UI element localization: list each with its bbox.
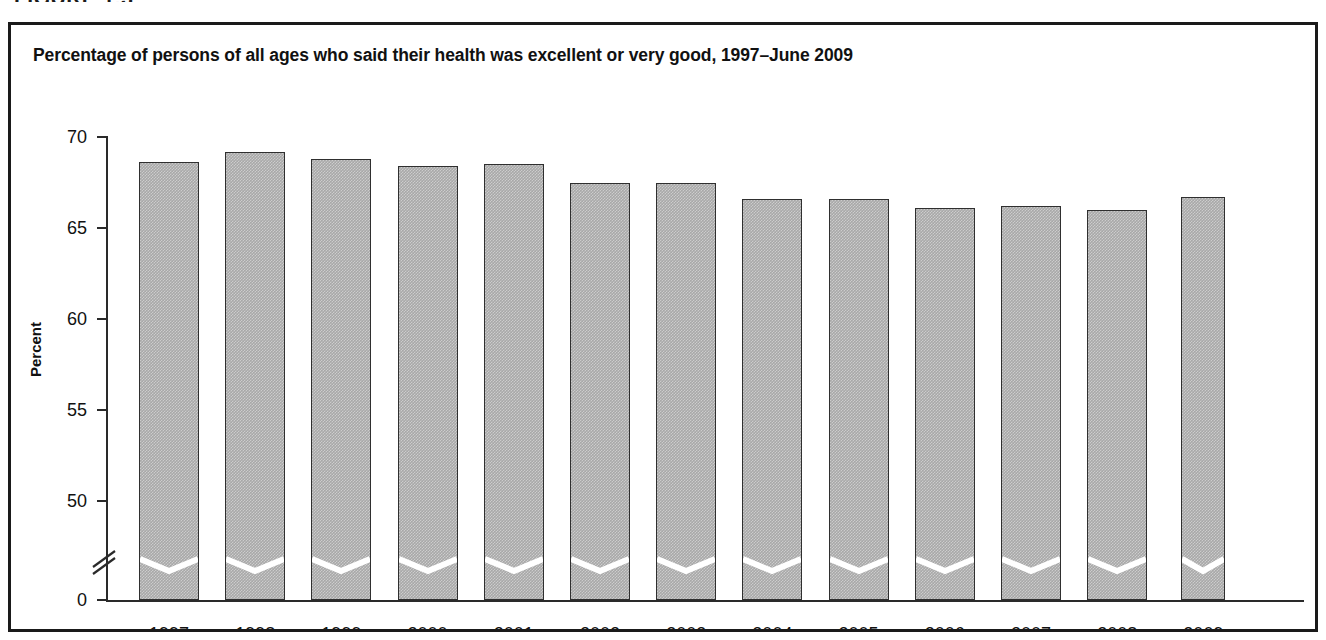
bar-break-mark [916,555,974,577]
bar-break-mark [571,555,629,577]
bar-1998 [225,152,285,600]
x-axis-label-1999: 1999 [301,625,381,632]
chart-panel: Percentage of persons of all ages who sa… [8,22,1318,632]
y-tick-65 [97,227,107,229]
x-axis-label-1997: 1997 [129,625,209,632]
x-axis-label-2004: 2004 [732,625,812,632]
x-axis-label-2002: 2002 [560,625,640,632]
bar-break-mark [830,555,888,577]
y-tick-60 [97,318,107,320]
bar-break-mark [485,555,543,577]
bar-break-mark [312,555,370,577]
x-axis-line [106,600,1304,602]
figure-label: FIGURE 1.3 [14,0,133,2]
x-axis-label-2000: 2000 [388,625,468,632]
x-axis-label-2006: 2006 [905,625,985,632]
y-tick-label-65: 65 [47,219,87,237]
y-tick-0 [97,599,107,601]
y-tick-50 [97,500,107,502]
bar-break-mark [399,555,457,577]
y-tick-55 [97,409,107,411]
axis-break-icon [89,545,123,579]
bar-2003 [656,183,716,601]
bar-2004 [742,199,802,600]
y-tick-label-55: 55 [47,401,87,419]
y-tick-70 [97,136,107,138]
bar-break-mark [1002,555,1060,577]
bar-2001 [484,164,544,600]
bar-break-mark [140,555,198,577]
y-axis-line [106,136,108,602]
x-axis-label-2001: 2001 [474,625,554,632]
bar-2009 [1181,197,1225,600]
bar-2006 [915,208,975,600]
y-tick-label-0: 0 [47,591,87,609]
y-axis-title: Percent [27,322,44,377]
bar-break-mark [743,555,801,577]
bar-break-mark [657,555,715,577]
y-tick-label-50: 50 [47,492,87,510]
bar-1997 [139,162,199,600]
bar-2005 [829,199,889,600]
y-tick-label-60: 60 [47,310,87,328]
x-axis-label-2003: 2003 [646,625,726,632]
bar-2007 [1001,206,1061,600]
plot-area: 70656055500 Percent 19971998199920002001… [11,25,1318,632]
x-axis-label-2005: 2005 [819,625,899,632]
bar-break-mark [1088,555,1146,577]
x-axis-label-2009: 2009 [1163,625,1243,632]
x-axis-label-2008: 2008 [1077,625,1157,632]
bar-break-mark [226,555,284,577]
x-axis-label-2007: 2007 [991,625,1071,632]
bar-2008 [1087,210,1147,600]
bar-2000 [398,166,458,600]
bar-1999 [311,159,371,600]
bar-break-mark [1182,555,1224,577]
y-tick-label-70: 70 [47,128,87,146]
x-axis-label-1998: 1998 [215,625,295,632]
bar-2002 [570,183,630,601]
